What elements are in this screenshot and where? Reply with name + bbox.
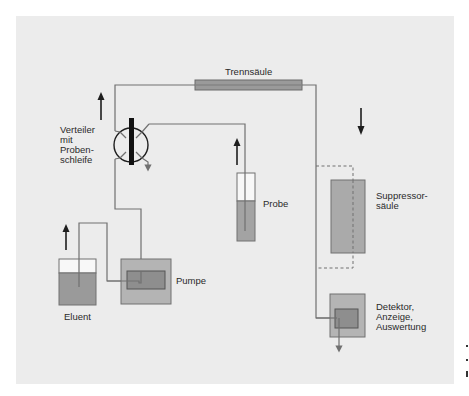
margin-marks [466, 345, 468, 377]
sample-label: Probe [263, 198, 288, 209]
valve-label-line4: schleife [60, 154, 92, 165]
suppressor-column [331, 180, 365, 253]
sample-vial [237, 173, 255, 241]
suppressor-label-line2: säule [376, 200, 399, 211]
detector-label-line3: Auswertung [376, 321, 426, 332]
pump-label: Pumpe [176, 275, 206, 286]
separation-column [195, 80, 302, 90]
eluent-reservoir [59, 259, 96, 305]
column-label: Trennsäule [225, 66, 272, 77]
eluent-label: Eluent [64, 311, 91, 322]
